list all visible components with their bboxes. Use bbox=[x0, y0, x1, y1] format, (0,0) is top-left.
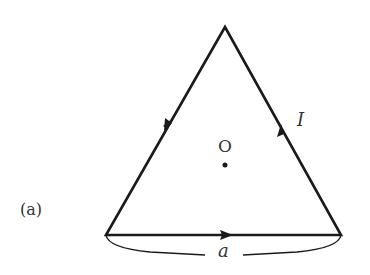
side-length-label: a bbox=[218, 240, 229, 261]
length-brace bbox=[106, 235, 205, 255]
triangle-loop bbox=[106, 27, 341, 235]
panel-label: (a) bbox=[20, 200, 42, 219]
current-label: I bbox=[297, 109, 304, 130]
triangle-svg bbox=[0, 0, 370, 275]
triangle-loop-diagram: O I (a) a bbox=[0, 0, 370, 275]
center-label: O bbox=[218, 136, 232, 156]
center-point bbox=[223, 163, 228, 168]
length-brace bbox=[243, 235, 341, 255]
